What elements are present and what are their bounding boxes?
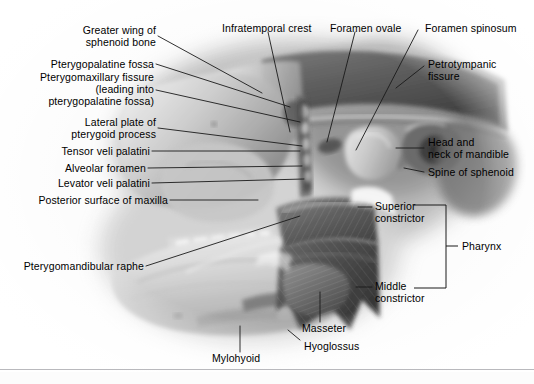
label-infratemporal-crest: Infratemporal crest xyxy=(222,22,312,34)
leader-levator-veli-palatini xyxy=(152,179,304,183)
label-spine-of-sphenoid: Spine of sphenoid xyxy=(428,166,514,178)
label-posterior-surface-of-maxilla: Posterior surface of maxilla xyxy=(0,194,168,206)
leader-foramen-spinosum xyxy=(356,30,418,150)
label-middle-constrictor: Middle constrictor xyxy=(375,280,425,304)
leader-alveolar-foramen xyxy=(148,166,302,168)
label-greater-wing-of-sphenoid-bone: Greater wing of sphenoid bone xyxy=(0,24,156,48)
label-foramen-spinosum: Foramen spinosum xyxy=(425,22,517,34)
label-petrotympanic-fissure: Petrotympanic fissure xyxy=(428,58,496,82)
label-mylohyoid: Mylohyoid xyxy=(212,352,260,364)
leader-spine-of-sphenoid xyxy=(404,168,424,172)
label-head-and-neck-of-mandible: Head and neck of mandible xyxy=(428,136,509,160)
label-pterygomandibular-raphe: Pterygomandibular raphe xyxy=(0,260,144,272)
label-tensor-veli-palatini: Tensor veli palatini xyxy=(0,145,150,157)
label-superior-constrictor: Superior constrictor xyxy=(375,200,425,224)
leader-petrotympanic-fissure xyxy=(396,66,424,88)
anatomical-figure: Greater wing of sphenoid bone Pterygopal… xyxy=(0,0,534,384)
label-foramen-ovale: Foramen ovale xyxy=(330,22,401,34)
leader-pterygomaxillary-fissure xyxy=(156,90,300,122)
leader-pterygopalatine-fossa xyxy=(156,64,290,107)
leader-hyoglossus xyxy=(288,330,300,340)
leader-lateral-plate-of-pterygoid-process xyxy=(158,128,302,146)
leader-greater-wing-of-sphenoid-bone xyxy=(158,36,262,93)
label-levator-veli-palatini: Levator veli palatini xyxy=(0,177,150,189)
label-pterygopalatine-fossa: Pterygopalatine fossa xyxy=(0,58,154,70)
label-lateral-plate-of-pterygoid-process: Lateral plate of pterygoid process xyxy=(0,116,156,140)
leader-foramen-ovale xyxy=(327,32,355,142)
label-masseter: Masseter xyxy=(302,322,346,334)
label-pterygomaxillary-fissure: Pterygomaxillary fissure (leading into p… xyxy=(0,71,154,108)
label-hyoglossus: Hyoglossus xyxy=(304,340,359,352)
label-alveolar-foramen: Alveolar foramen xyxy=(0,162,146,174)
label-pharynx: Pharynx xyxy=(462,240,501,252)
leader-pterygomandibular-raphe xyxy=(146,216,300,266)
